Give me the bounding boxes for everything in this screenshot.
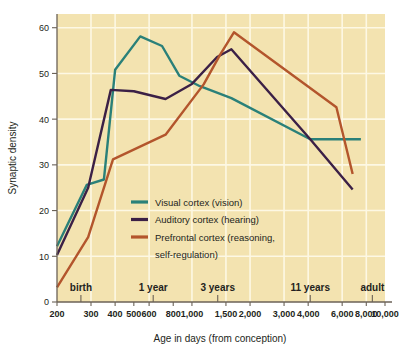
y-tick-label-20: 20 (39, 206, 49, 216)
y-tick-label-10: 10 (39, 252, 49, 262)
x-tick-label-4000: 4,000 (297, 309, 320, 319)
legend-label-0: Visual cortex (vision) (155, 197, 242, 208)
x-tick-label-400: 400 (108, 309, 123, 319)
y-tick-label-40: 40 (39, 115, 49, 125)
annotation-label-1: 1 year (139, 282, 168, 293)
x-tick-label-200: 200 (49, 309, 64, 319)
y-tick-label-30: 30 (39, 160, 49, 170)
y-tick-label-0: 0 (44, 297, 49, 307)
x-axis-title: Age in days (from conception) (154, 333, 287, 344)
x-tick-label-10000: 10,000 (371, 309, 399, 319)
annotation-label-4: adult (360, 282, 385, 293)
x-tick-label-300: 300 (83, 309, 98, 319)
y-tick-label-60: 60 (39, 23, 49, 33)
x-tick-label-600: 600 (142, 309, 157, 319)
annotation-label-3: 11 years (290, 282, 330, 293)
x-tick-label-3000: 3,000 (273, 309, 296, 319)
x-tick-label-800: 800 (166, 309, 181, 319)
x-tick-label-6000: 6,000 (331, 309, 354, 319)
annotation-label-0: birth (70, 282, 92, 293)
legend-label-2: Prefrontal cortex (reasoning, (155, 232, 275, 243)
synaptic-density-chart: 0102030405060 2003004005006008001,0001,5… (0, 0, 416, 353)
y-axis-title: Synaptic density (7, 122, 18, 195)
legend-label-continuation: self-regulation) (155, 249, 218, 260)
legend-label-1: Auditory cortex (hearing) (155, 214, 259, 225)
x-tick-label-500: 500 (126, 309, 141, 319)
y-tick-label-50: 50 (39, 69, 49, 79)
x-tick-label-1500: 1,500 (215, 309, 238, 319)
x-tick-label-1000: 1,000 (181, 309, 204, 319)
chart-canvas: 0102030405060 2003004005006008001,0001,5… (0, 0, 416, 353)
x-tick-label-2000: 2,000 (239, 309, 262, 319)
annotation-label-2: 3 years (200, 282, 235, 293)
